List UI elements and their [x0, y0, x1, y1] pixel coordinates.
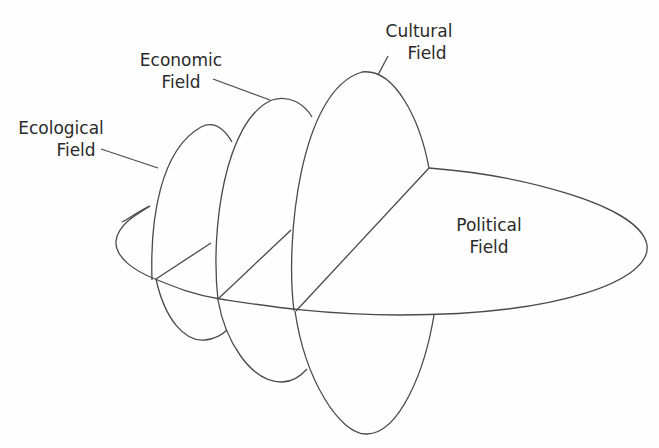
ecological-leader-line: [101, 149, 158, 168]
fields-diagram: [0, 0, 659, 448]
cultural-label-line1: Cultural: [379, 20, 459, 42]
cultural-inner-line: [296, 168, 429, 311]
political-label-line1: Political: [448, 214, 530, 236]
ecological-field-label: Ecological Field: [14, 117, 108, 161]
ecological-label-line1: Ecological: [14, 117, 108, 139]
cultural-field-shape: [292, 72, 429, 311]
ecological-inner-line: [156, 243, 211, 279]
political-field-label: Political Field: [448, 214, 530, 258]
economic-label-line2: Field: [133, 71, 229, 93]
cultural-field-label: Cultural Field: [379, 20, 459, 64]
ecological-label-line2: Field: [14, 139, 108, 161]
political-label-line2: Field: [448, 236, 530, 258]
economic-label-line1: Economic: [133, 49, 229, 71]
economic-field-lower: [218, 300, 307, 382]
economic-field-shape: [216, 98, 312, 300]
cultural-label-line2: Field: [379, 42, 459, 64]
political-field-shape: [116, 168, 647, 315]
cultural-field-lower: [295, 311, 434, 434]
economic-field-label: Economic Field: [133, 49, 229, 93]
economic-inner-line: [218, 230, 291, 299]
